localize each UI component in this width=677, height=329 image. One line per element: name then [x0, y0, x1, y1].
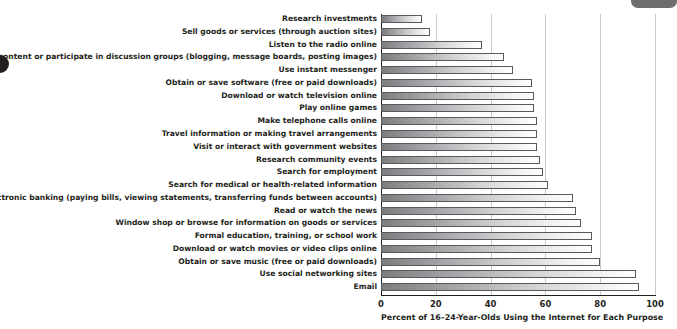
bar: [381, 28, 430, 36]
bar-row: Use social networking sites: [381, 269, 655, 282]
bar-row: Obtain or save software (free or paid do…: [381, 78, 655, 91]
x-tick-label-80: 80: [594, 299, 606, 309]
x-tick-label-60: 60: [540, 299, 552, 309]
bar-row: Make telephone calls online: [381, 116, 655, 129]
horizontal-bar-chart: Research investmentsSell goods or servic…: [0, 0, 677, 329]
category-label: Use social networking sites: [260, 268, 377, 279]
category-label: Listen to the radio online: [269, 39, 377, 50]
x-tick-label-40: 40: [485, 299, 497, 309]
category-label: Play online games: [299, 102, 377, 113]
bar: [381, 53, 504, 61]
bar-row: Download or watch movies or video clips …: [381, 244, 655, 257]
bar: [381, 79, 532, 87]
bar: [381, 104, 534, 112]
bar: [381, 270, 636, 278]
category-label: Search for medical or health-related inf…: [168, 179, 377, 190]
x-tick-label-0: 0: [378, 299, 384, 309]
bar-row: Sell goods or services (through auction …: [381, 27, 655, 40]
bar-row: Search for medical or health-related inf…: [381, 180, 655, 193]
bar-row: Visit or interact with government websit…: [381, 142, 655, 155]
category-label: Visit or interact with government websit…: [193, 141, 377, 152]
bar: [381, 168, 543, 176]
category-label: Research community events: [256, 154, 377, 165]
bar: [381, 258, 600, 266]
bar-row: Email: [381, 282, 655, 295]
bar-row: Read or watch the news: [381, 206, 655, 219]
bar: [381, 41, 482, 49]
category-label: Electronic banking (paying bills, viewin…: [0, 192, 377, 203]
bar: [381, 207, 576, 215]
bar-row: Contribute content or participate in dis…: [381, 52, 655, 65]
category-label: Download or watch television online: [221, 90, 377, 101]
bar-row: Research community events: [381, 155, 655, 168]
bar-row: Use instant messenger: [381, 65, 655, 78]
bar: [381, 156, 540, 164]
category-label: Search for employment: [277, 166, 377, 177]
bar-row: Listen to the radio online: [381, 40, 655, 53]
bar-rows: Research investmentsSell goods or servic…: [381, 14, 655, 295]
bar: [381, 15, 422, 23]
category-label: Use instant messenger: [279, 64, 377, 75]
bar: [381, 143, 537, 151]
category-label: Sell goods or services (through auction …: [182, 26, 377, 37]
bar-row: Travel information or making travel arra…: [381, 129, 655, 142]
category-label: Read or watch the news: [274, 205, 377, 216]
bar: [381, 245, 592, 253]
x-axis-label: Percent of 16–24-Year-Olds Using the Int…: [381, 313, 656, 322]
x-tick-label-100: 100: [646, 299, 663, 309]
bar-row: Play online games: [381, 103, 655, 116]
bar-row: Research investments: [381, 14, 655, 27]
category-label: Obtain or save software (free or paid do…: [166, 77, 377, 88]
bar-row: Obtain or save music (free or paid downl…: [381, 257, 655, 270]
bar-row: Search for employment: [381, 167, 655, 180]
category-label: Make telephone calls online: [258, 115, 378, 126]
category-label: Contribute content or participate in dis…: [0, 51, 377, 62]
bar: [381, 117, 537, 125]
x-axis-line: [381, 295, 656, 296]
bar-row: Formal education, training, or school wo…: [381, 231, 655, 244]
bar-row: Electronic banking (paying bills, viewin…: [381, 193, 655, 206]
x-tick-label-20: 20: [430, 299, 442, 309]
gridline-100: [655, 14, 656, 295]
category-label: Research investments: [282, 13, 377, 24]
category-label: Formal education, training, or school wo…: [195, 230, 377, 241]
bar-row: Download or watch television online: [381, 91, 655, 104]
category-label: Download or watch movies or video clips …: [173, 243, 377, 254]
category-label: Email: [354, 281, 377, 292]
bar: [381, 92, 534, 100]
plot-area: Research investmentsSell goods or servic…: [381, 14, 655, 295]
bar: [381, 194, 573, 202]
category-label: Window shop or browse for information on…: [116, 217, 377, 228]
bar: [381, 283, 639, 291]
bar: [381, 181, 548, 189]
bar-row: Window shop or browse for information on…: [381, 218, 655, 231]
category-label: Obtain or save music (free or paid downl…: [178, 256, 377, 267]
bar: [381, 219, 581, 227]
bar: [381, 66, 513, 74]
category-label: Travel information or making travel arra…: [162, 128, 377, 139]
bar: [381, 130, 537, 138]
bar: [381, 232, 592, 240]
